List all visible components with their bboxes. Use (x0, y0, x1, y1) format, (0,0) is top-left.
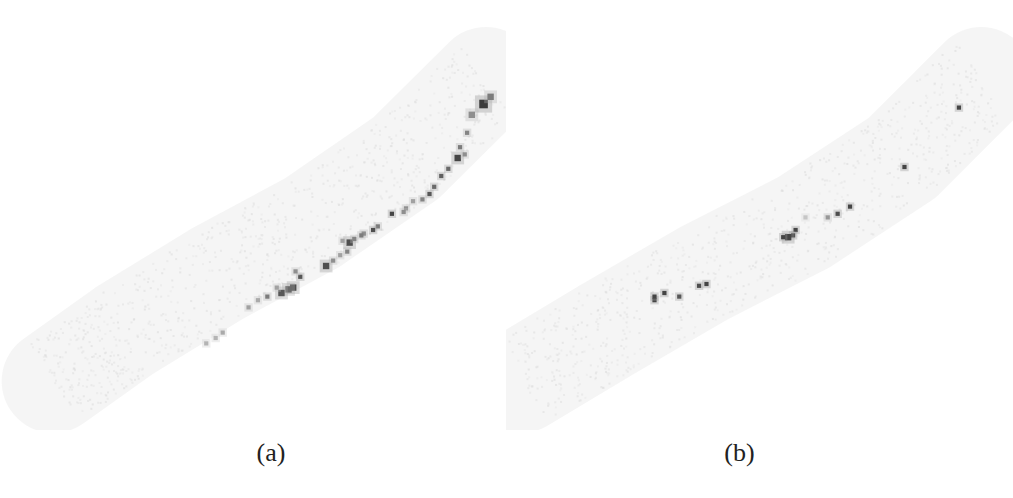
band-speck (108, 370, 110, 372)
band-speck (780, 260, 782, 262)
band-speck (913, 133, 915, 135)
band-speck (992, 125, 994, 127)
band-speck (801, 231, 803, 233)
band-speck (985, 114, 987, 116)
band-speck (692, 277, 694, 279)
band-speck (835, 185, 837, 187)
band-speck (991, 116, 993, 118)
band-speck (142, 299, 144, 301)
band-speck (938, 173, 940, 175)
band-speck (115, 339, 117, 341)
band-speck (207, 236, 209, 238)
band-speck (817, 258, 819, 260)
band-speck (81, 410, 83, 412)
band-speck (923, 147, 925, 149)
band-speck (153, 324, 155, 326)
band-speck (241, 244, 243, 246)
band-speck (150, 287, 152, 289)
band-speck (264, 220, 266, 222)
band-speck (697, 234, 699, 236)
band-speck (886, 173, 888, 175)
band-speck (818, 231, 820, 233)
band-speck (316, 235, 318, 237)
band-speck (208, 231, 210, 233)
band-speck (474, 70, 476, 72)
band-speck (199, 248, 201, 250)
band-speck (721, 289, 723, 291)
band-speck (620, 345, 622, 347)
band-speck (843, 218, 845, 220)
band-speck (183, 336, 185, 338)
band-speck (110, 383, 112, 385)
band-speck (676, 263, 678, 265)
band-speck (512, 334, 514, 336)
band-speck (109, 359, 111, 361)
band-speck (50, 331, 52, 333)
band-speck (449, 135, 451, 137)
band-speck (461, 83, 463, 85)
band-speck (638, 270, 640, 272)
band-speck (907, 149, 909, 151)
band-speck (293, 205, 295, 207)
band-speck (701, 248, 703, 250)
band-speck (86, 379, 88, 381)
band-speck (245, 283, 247, 285)
panel-b: (b) (506, 0, 1013, 498)
band-speck (586, 324, 588, 326)
band-speck (809, 163, 811, 165)
band-speck (847, 194, 849, 196)
band-speck (58, 337, 60, 339)
band-speck (678, 329, 680, 331)
band-speck (106, 323, 108, 325)
band-speck (208, 270, 210, 272)
band-speck (419, 171, 421, 173)
band-speck (835, 230, 837, 232)
band-speck (334, 211, 336, 213)
band-speck (899, 158, 901, 160)
band-speck (58, 366, 60, 368)
band-speck (534, 350, 536, 352)
band-speck (656, 252, 658, 254)
band-speck (557, 360, 559, 362)
band-speck (156, 352, 158, 354)
band-speck (693, 266, 695, 268)
band-speck (614, 348, 616, 350)
band-speck (385, 157, 387, 159)
band-speck (322, 183, 324, 185)
band-speck (436, 68, 438, 70)
band-speck (82, 370, 84, 372)
band-speck (99, 329, 101, 331)
band-speck (240, 249, 242, 251)
band-speck (895, 103, 897, 105)
band-speck (328, 229, 330, 231)
band-speck (419, 158, 421, 160)
band-speck (652, 307, 654, 309)
band-speck (807, 250, 809, 252)
band-speck (44, 354, 46, 356)
band-speck (181, 350, 183, 352)
band-speck (904, 116, 906, 118)
band-speck (140, 333, 142, 335)
band-speck (211, 227, 213, 229)
band-speck (936, 136, 938, 138)
band-speck (43, 359, 45, 361)
band-speck (554, 401, 556, 403)
band-speck (118, 327, 120, 329)
band-speck (410, 138, 412, 140)
band-speck (164, 347, 166, 349)
band-speck (53, 374, 55, 376)
band-speck (966, 94, 968, 96)
band-speck (581, 351, 583, 353)
band-speck (434, 171, 436, 173)
band-speck (252, 224, 254, 226)
band-speck (123, 387, 125, 389)
band-speck (278, 249, 280, 251)
band-speck (499, 101, 501, 103)
band-speck (312, 256, 314, 258)
band-speck (429, 105, 431, 107)
band-speck (537, 388, 539, 390)
band-speck (633, 317, 635, 319)
band-speck (810, 167, 812, 169)
band-speck (941, 68, 943, 70)
band-speck (97, 402, 99, 404)
